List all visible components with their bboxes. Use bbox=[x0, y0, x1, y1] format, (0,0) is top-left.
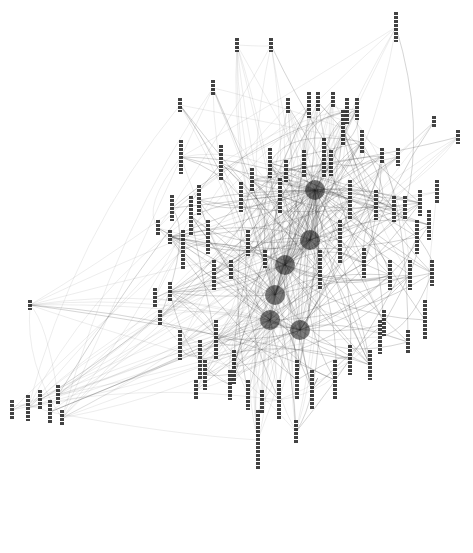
node-label bbox=[179, 140, 183, 174]
node-label bbox=[168, 230, 172, 244]
node-label bbox=[403, 196, 407, 220]
node-label bbox=[38, 390, 42, 410]
node-label bbox=[60, 410, 64, 426]
node-label bbox=[392, 196, 396, 222]
node-label bbox=[239, 182, 243, 212]
node-label bbox=[278, 178, 282, 214]
graph-edges bbox=[0, 0, 473, 553]
node-label bbox=[268, 148, 272, 178]
node-label bbox=[26, 395, 30, 421]
node-label bbox=[348, 180, 352, 220]
node-label bbox=[294, 420, 298, 444]
node-label bbox=[158, 310, 162, 326]
node-label bbox=[388, 260, 392, 290]
node-label bbox=[316, 92, 320, 112]
node-label bbox=[432, 116, 436, 128]
node-label bbox=[203, 360, 207, 390]
node-label bbox=[318, 250, 322, 290]
node-label bbox=[295, 360, 299, 400]
node-label bbox=[56, 385, 60, 405]
node-label bbox=[206, 220, 210, 254]
node-label bbox=[329, 150, 333, 176]
node-label bbox=[235, 38, 239, 52]
node-label bbox=[345, 98, 349, 124]
node-label bbox=[333, 360, 337, 400]
node-label bbox=[286, 98, 290, 114]
node-label bbox=[269, 38, 273, 52]
node-label bbox=[338, 220, 342, 264]
node-label bbox=[246, 230, 250, 256]
node-label bbox=[194, 380, 198, 400]
node-label bbox=[189, 196, 193, 236]
node-label bbox=[380, 148, 384, 164]
node-label bbox=[198, 340, 202, 380]
node-label bbox=[406, 330, 410, 354]
node-label bbox=[382, 310, 386, 336]
node-label bbox=[415, 220, 419, 254]
node-label bbox=[10, 400, 14, 420]
node-label bbox=[197, 185, 201, 215]
node-label bbox=[355, 98, 359, 120]
node-label bbox=[178, 98, 182, 112]
node-label bbox=[229, 260, 233, 280]
node-label bbox=[368, 350, 372, 380]
node-label bbox=[28, 300, 32, 310]
node-label bbox=[418, 190, 422, 216]
node-label bbox=[360, 130, 364, 154]
node-label bbox=[263, 250, 267, 268]
node-label bbox=[435, 180, 439, 204]
node-label bbox=[427, 210, 431, 240]
node-label bbox=[232, 350, 236, 384]
node-label bbox=[214, 320, 218, 360]
node-label bbox=[178, 330, 182, 360]
node-label bbox=[408, 260, 412, 290]
node-label bbox=[250, 168, 254, 192]
node-label bbox=[302, 150, 306, 178]
network-graph bbox=[0, 0, 473, 553]
node-label bbox=[212, 260, 216, 290]
node-label bbox=[284, 160, 288, 182]
node-label bbox=[211, 80, 215, 96]
node-label bbox=[396, 148, 400, 166]
node-label bbox=[394, 12, 398, 42]
node-label bbox=[156, 220, 160, 236]
node-label bbox=[277, 380, 281, 420]
node-label bbox=[348, 345, 352, 375]
node-label bbox=[260, 390, 264, 414]
node-label bbox=[310, 370, 314, 410]
node-label bbox=[322, 138, 326, 178]
node-label bbox=[170, 195, 174, 221]
node-label bbox=[362, 248, 366, 278]
node-label bbox=[456, 130, 460, 144]
node-label bbox=[153, 288, 157, 308]
node-label bbox=[430, 260, 434, 286]
node-label bbox=[48, 400, 52, 424]
node-label bbox=[219, 145, 223, 181]
node-label bbox=[181, 230, 185, 270]
node-label bbox=[423, 300, 427, 340]
node-label bbox=[307, 92, 311, 118]
node-label bbox=[228, 370, 232, 400]
node-label bbox=[256, 410, 260, 470]
node-label bbox=[246, 380, 250, 410]
node-label bbox=[341, 110, 345, 146]
node-label bbox=[374, 190, 378, 220]
node-label bbox=[331, 92, 335, 108]
node-label bbox=[168, 282, 172, 302]
